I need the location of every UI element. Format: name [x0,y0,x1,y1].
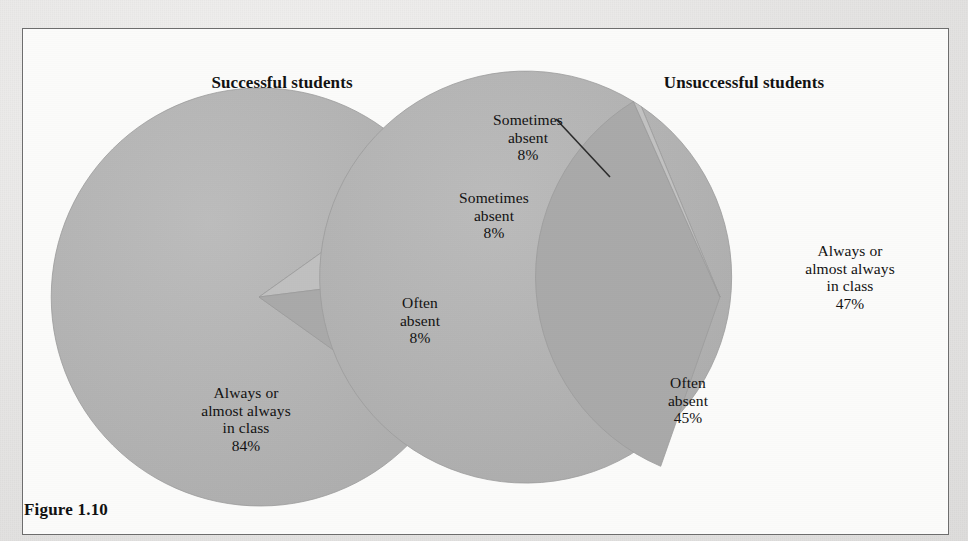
pie-label-right-often-absent: Often absent 45% [623,374,753,427]
pie-label-left-often-absent: Often absent 8% [368,294,472,347]
figure-caption: Figure 1.10 [24,500,108,520]
figure-frame: Successful students Unsuccessful student… [22,28,949,535]
pie-label-right-sometimes-absent: Sometimes absent 8% [455,111,601,164]
chart-title-unsuccessful-students: Unsuccessful students [589,73,899,93]
chart-title-successful-students: Successful students [127,73,437,93]
pie-label-right-always-in-class: Always or almost always in class 47% [761,242,939,312]
pie-label-left-always-in-class: Always or almost always in class 84% [146,384,346,454]
pie-label-left-sometimes-absent: Sometimes absent 8% [421,189,567,242]
